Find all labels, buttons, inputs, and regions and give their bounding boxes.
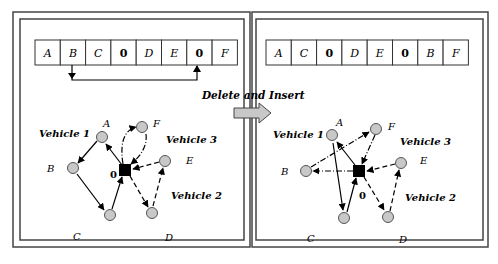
- depot-label: 0: [359, 190, 366, 201]
- sequence-cell-label: A: [274, 47, 283, 60]
- vehicle-1-label: Vehicle 1: [273, 129, 324, 140]
- move-indicator: [68, 65, 201, 80]
- diagram-canvas: ABC0DE0F: [0, 0, 498, 264]
- depot-square: [353, 165, 365, 177]
- right-sequence: AC0DE0BF: [266, 40, 468, 65]
- label-b: B: [280, 166, 288, 177]
- node-b: [301, 166, 312, 177]
- sequence-cell-label: 0: [120, 47, 128, 60]
- sequence-cell-label: 0: [325, 47, 333, 60]
- vehicle-2-label: Vehicle 2: [171, 190, 222, 201]
- sequence-cell-label: C: [300, 47, 309, 60]
- label-d: D: [398, 234, 407, 245]
- label-a: A: [335, 117, 343, 128]
- vehicle-2-label: Vehicle 2: [405, 192, 456, 203]
- sequence-cell-label: B: [425, 47, 434, 60]
- vehicle-3-label: Vehicle 3: [400, 136, 451, 147]
- left-panel: ABC0DE0F: [13, 12, 250, 247]
- sequence-cell-label: E: [169, 47, 178, 60]
- label-f: F: [387, 121, 396, 132]
- node-d: [383, 212, 394, 223]
- label-d: D: [164, 232, 173, 243]
- label-c: C: [307, 233, 315, 244]
- sequence-cell-label: F: [220, 47, 229, 60]
- left-labels: A B C D E F 0 Vehicle 1 Vehicle 2 Vehicl…: [39, 118, 222, 243]
- node-d: [147, 208, 158, 219]
- node-c: [105, 210, 116, 221]
- operation-indicator: Delete and Insert: [201, 89, 305, 123]
- label-b: B: [46, 163, 54, 174]
- depot-square: [119, 164, 131, 176]
- left-sequence: ABC0DE0F: [35, 40, 237, 65]
- node-a: [327, 130, 338, 141]
- node-f: [371, 124, 382, 135]
- operation-label: Delete and Insert: [201, 89, 305, 101]
- sequence-cell-label: B: [68, 47, 77, 60]
- sequence-cell-label: A: [43, 47, 52, 60]
- node-a: [97, 132, 108, 143]
- right-panel: AC0DE0BF A B C D: [252, 12, 488, 247]
- sequence-cell-label: F: [451, 47, 460, 60]
- label-e: E: [419, 155, 428, 166]
- sequence-cell-label: D: [349, 47, 359, 60]
- label-f: F: [152, 118, 161, 129]
- label-e: E: [185, 155, 194, 166]
- right-labels: A B C D E F 0 Vehicle 1 Vehicle 2 Vehicl…: [273, 117, 456, 245]
- sequence-cell-label: C: [94, 47, 103, 60]
- vehicle-3-label: Vehicle 3: [166, 134, 217, 145]
- label-a: A: [102, 118, 110, 129]
- sequence-cell-label: 0: [196, 47, 204, 60]
- node-c: [339, 213, 350, 224]
- label-c: C: [73, 231, 81, 242]
- node-e: [396, 158, 407, 169]
- depot-label: 0: [110, 169, 117, 180]
- sequence-cell-label: E: [375, 47, 384, 60]
- sequence-cell-label: D: [143, 47, 153, 60]
- node-f: [137, 122, 148, 133]
- node-e: [160, 156, 171, 167]
- vehicle-1-label: Vehicle 1: [39, 128, 90, 139]
- sequence-cell-label: 0: [401, 47, 409, 60]
- node-b: [68, 163, 79, 174]
